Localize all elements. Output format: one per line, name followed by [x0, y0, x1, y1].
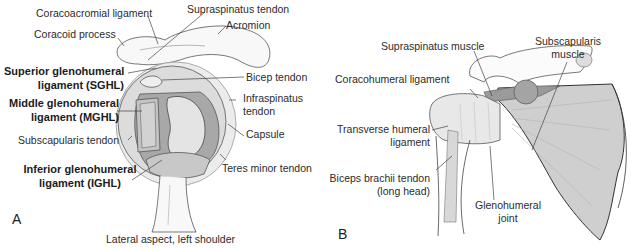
label-infraspinatus-tendon: Infraspinatus tendon [243, 92, 303, 118]
label-biceps-line1: Biceps brachii tendon [318, 172, 430, 185]
label-supraspinatus-muscle: Supraspinatus muscle [381, 40, 484, 53]
label-coracoacromial-ligament: Coracoacromial ligament [36, 7, 152, 20]
label-subscapularis-line2: muscle [530, 48, 606, 61]
panel-a-caption: Lateral aspect, left shoulder [106, 233, 235, 246]
label-glenohumeral-joint: Glenohumeral joint [470, 199, 546, 225]
label-glenohumeral-line1: Glenohumeral [470, 199, 546, 212]
label-biceps-brachii-tendon: Biceps brachii tendon (long head) [318, 172, 430, 198]
label-infraspinatus-line1: Infraspinatus [243, 92, 303, 105]
label-transverse-humeral-ligament: Transverse humeral ligament [330, 123, 430, 149]
label-sghl: Superior glenohumeral ligament (SGHL) [4, 64, 124, 92]
label-ighl: Inferior glenohumeral ligament (IGHL) [20, 162, 140, 190]
label-transverse-line1: Transverse humeral [330, 123, 430, 136]
label-ighl-line2: ligament (IGHL) [20, 176, 140, 190]
label-acromion: Acromion [226, 19, 270, 32]
label-mghl-line1: Middle glenohumeral [4, 96, 119, 110]
label-transverse-line2: ligament [330, 136, 430, 149]
label-infraspinatus-line2: tendon [243, 105, 303, 118]
label-sghl-line1: Superior glenohumeral [4, 64, 124, 78]
label-supraspinatus-tendon: Supraspinatus tendon [187, 3, 289, 16]
shoulder-anatomy-figure: Coracoacromial ligament Supraspinatus te… [0, 0, 631, 251]
label-mghl: Middle glenohumeral ligament (MGHL) [4, 96, 119, 124]
label-subscapularis-line1: Subscapularis [530, 35, 606, 48]
panel-a-letter: A [12, 211, 21, 227]
label-subscapularis-muscle: Subscapularis muscle [530, 35, 606, 61]
label-teres-minor-tendon: Teres minor tendon [222, 162, 312, 175]
label-sghl-line2: ligament (SGHL) [4, 78, 124, 92]
label-coracohumeral-ligament: Coracohumeral ligament [335, 73, 449, 86]
label-capsule: Capsule [246, 128, 285, 141]
label-glenohumeral-line2: joint [470, 212, 546, 225]
panel-b-letter: B [338, 226, 347, 242]
label-ighl-line1: Inferior glenohumeral [20, 162, 140, 176]
label-mghl-line2: ligament (MGHL) [4, 110, 119, 124]
label-bicep-tendon: Bicep tendon [246, 71, 307, 84]
label-coracoid-process: Coracoid process [34, 28, 116, 41]
label-biceps-line2: (long head) [318, 185, 430, 198]
label-subscapularis-tendon: Subscapularis tendon [18, 134, 119, 147]
